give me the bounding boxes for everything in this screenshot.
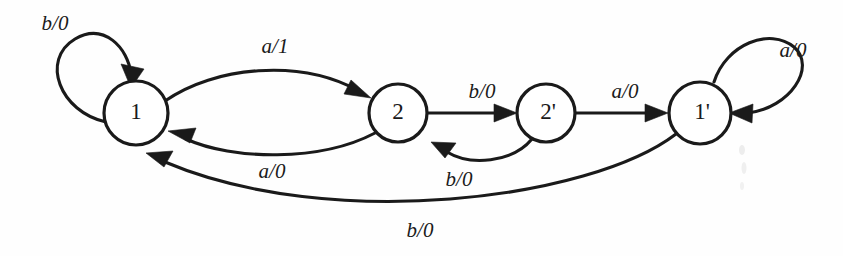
state-node-2[interactable]: 2 bbox=[369, 84, 427, 142]
state-label: 1' bbox=[694, 99, 710, 124]
transition-s1p-to-s1-b0 bbox=[146, 134, 676, 201]
transition-label-s1p-to-s1-b0: b/0 bbox=[407, 218, 434, 242]
transition-s2p-to-s2-b0 bbox=[431, 139, 532, 160]
scan-artifact bbox=[739, 145, 747, 190]
state-label: 2' bbox=[540, 99, 556, 124]
fsm-canvas: 1 2 2' 1' b/0 a/1 a/0 b/0 b/0 a/0 a/0 b/… bbox=[0, 0, 843, 256]
state-label: 2 bbox=[392, 99, 404, 124]
state-machine-diagram: 1 2 2' 1' b/0 a/1 a/0 b/0 b/0 a/0 a/0 b/… bbox=[0, 0, 843, 256]
transition-label-s2p-to-s1p-a0: a/0 bbox=[612, 79, 639, 103]
state-label: 1 bbox=[130, 99, 142, 124]
transition-s2-to-s2p-b0 bbox=[428, 104, 517, 122]
transition-path bbox=[165, 70, 357, 101]
arrow-head bbox=[494, 104, 517, 122]
transition-path bbox=[165, 134, 676, 201]
transition-label-s2-to-s1-a0: a/0 bbox=[259, 159, 286, 183]
state-node-1-prime[interactable]: 1' bbox=[669, 82, 731, 144]
transition-s2-to-s1-a0 bbox=[168, 128, 375, 155]
transition-label-s1p-self-a0: a/0 bbox=[780, 38, 807, 62]
transition-s2p-to-s1p-a0 bbox=[576, 104, 668, 122]
transition-label-s2-to-s2p-b0: b/0 bbox=[469, 79, 496, 103]
state-node-1[interactable]: 1 bbox=[104, 81, 168, 145]
transition-path bbox=[186, 133, 375, 155]
transition-label-s2p-to-s2-b0: b/0 bbox=[446, 167, 473, 191]
arrow-head bbox=[344, 80, 371, 98]
transition-path bbox=[447, 139, 532, 160]
transition-s1-to-s2-a1 bbox=[165, 70, 371, 101]
state-node-2-prime[interactable]: 2' bbox=[517, 84, 575, 142]
arrow-head bbox=[729, 104, 753, 123]
transition-label-s1-self-b0: b/0 bbox=[42, 11, 69, 35]
arrow-head bbox=[645, 104, 668, 122]
transition-label-s1-to-s2-a1: a/1 bbox=[262, 34, 289, 58]
